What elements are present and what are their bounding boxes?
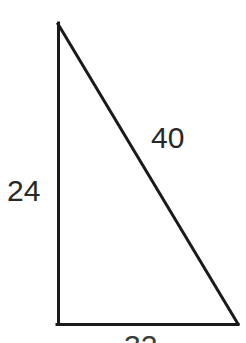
vertical-leg-label: 24 xyxy=(7,176,40,206)
hypotenuse-label: 40 xyxy=(151,123,184,153)
triangle-shape xyxy=(0,0,246,343)
triangle-figure: 24 40 32 xyxy=(0,0,246,343)
base-label: 32 xyxy=(124,331,157,343)
hypotenuse-line xyxy=(58,24,238,324)
